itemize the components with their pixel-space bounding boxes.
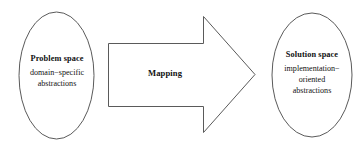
problem-space-line-2: abstractions bbox=[19, 79, 95, 90]
problem-space-line-1: domain−specific bbox=[19, 68, 95, 79]
mapping-label-text: Mapping bbox=[125, 68, 205, 79]
solution-space-line-2: oriented bbox=[271, 75, 353, 86]
solution-space-label: Solution space implementation− oriented … bbox=[271, 50, 353, 96]
solution-space-title: Solution space bbox=[271, 50, 353, 61]
mapping-arrow-label: Mapping bbox=[125, 68, 205, 79]
problem-space-title: Problem space bbox=[19, 54, 95, 65]
diagram-canvas: Problem space domain−specific abstractio… bbox=[0, 0, 364, 149]
diagram-text-layer: Problem space domain−specific abstractio… bbox=[0, 0, 364, 149]
problem-space-label: Problem space domain−specific abstractio… bbox=[19, 54, 95, 90]
solution-space-line-3: abstractions bbox=[271, 86, 353, 97]
solution-space-line-1: implementation− bbox=[271, 64, 353, 75]
